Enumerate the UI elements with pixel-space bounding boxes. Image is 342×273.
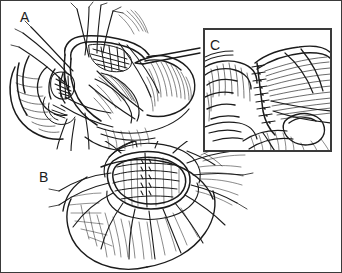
panel-label-b: B [39, 170, 49, 184]
illustration-canvas [1, 1, 342, 273]
panel-c-inset [204, 29, 331, 151]
surgical-figure: A B C [0, 0, 342, 273]
panel-label-c: C [210, 38, 221, 52]
panel-label-a: A [20, 10, 30, 24]
